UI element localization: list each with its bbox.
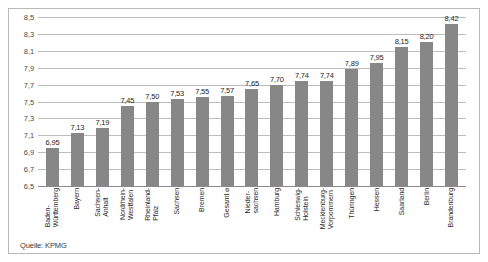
x-axis-label-slot: Saarland: [389, 188, 414, 246]
bar: 7,65: [245, 89, 258, 186]
x-axis-category-label: Sachsen: [173, 188, 181, 215]
x-axis-category-label: Hessen: [373, 188, 381, 211]
bar: 7,13: [71, 133, 84, 186]
bar: 7,89: [345, 69, 358, 186]
bar-slot: 8,42: [439, 17, 464, 186]
x-axis-category-label: Saarland: [398, 188, 406, 215]
x-axis-category-line: Hamburg: [273, 188, 281, 216]
x-axis-category-label: Thüringen: [348, 188, 356, 219]
x-axis-category-line: Rheinland-: [145, 188, 153, 221]
bar: 7,55: [196, 97, 209, 186]
bar-slot: 7,19: [90, 17, 115, 186]
chart-figure: 8,58,38,17,97,77,57,37,16,96,76,5 6,957,…: [0, 0, 488, 262]
x-axis-category-line: Württemberg: [52, 188, 60, 227]
x-axis-category-label: Nieder-sachsen: [244, 188, 259, 213]
bar-slot: 6,95: [40, 17, 65, 186]
x-axis-label-slot: Gesamt ⌀: [215, 188, 240, 246]
bar-slot: 8,20: [414, 17, 439, 186]
bar: 7,19: [96, 128, 109, 186]
x-axis-category-line: Nordrhein-: [120, 188, 128, 220]
bar: 8,20: [420, 42, 433, 186]
bar-value-label: 7,74: [295, 71, 309, 80]
bar-value-label: 8,20: [420, 32, 434, 41]
bar-value-label: 7,57: [220, 86, 234, 95]
bar-value-label: 7,55: [195, 87, 209, 96]
bar: 7,70: [270, 85, 283, 186]
x-axis-label-slot: Nordrhein-Westfalen: [115, 188, 140, 246]
bar: 7,53: [171, 99, 184, 186]
x-axis-label-slot: Hessen: [364, 188, 389, 246]
bar-slot: 7,89: [339, 17, 364, 186]
bar-slot: 7,50: [140, 17, 165, 186]
x-axis-label-slot: Schleswig-Holstein: [289, 188, 314, 246]
x-axis-category-line: Holstein: [302, 188, 310, 221]
x-axis-category-line: Thüringen: [348, 188, 356, 219]
bar: 7,45: [121, 106, 134, 186]
x-axis-category-label: Bremen: [198, 188, 206, 212]
bar-slot: 7,45: [115, 17, 140, 186]
bar-slot: 8,15: [389, 17, 414, 186]
bar: 8,15: [395, 47, 408, 186]
bar: 8,42: [445, 24, 458, 186]
x-axis-label-slot: Bayern: [65, 188, 90, 246]
x-axis-category-line: sachsen: [252, 188, 260, 213]
bar-value-label: 7,50: [145, 92, 159, 101]
x-axis-category-label: Rheinland-Pfalz: [145, 188, 160, 221]
plot-area: 8,58,38,17,97,77,57,37,16,96,76,5 6,957,…: [38, 17, 466, 186]
x-axis-category-label: Gesamt ⌀: [223, 188, 231, 218]
x-axis-category-line: Berlin: [423, 188, 431, 205]
x-axis-category-label: Hamburg: [273, 188, 281, 216]
bar-slot: 7,70: [264, 17, 289, 186]
bar: 7,57: [221, 96, 234, 186]
x-axis-labels: Baden-WürttembergBayernSachsen-AnhaltNor…: [38, 188, 466, 246]
x-axis-label-slot: Nieder-sachsen: [240, 188, 265, 246]
x-axis-category-line: Nieder-: [244, 188, 252, 213]
x-axis-category-line: Sachsen-: [95, 188, 103, 217]
x-axis-category-line: Bayern: [74, 188, 82, 210]
bar-value-label: 7,65: [245, 79, 259, 88]
bar-slot: 7,65: [240, 17, 265, 186]
bar-value-label: 7,13: [71, 123, 85, 132]
x-axis-category-label: Nordrhein-Westfalen: [120, 188, 135, 220]
bar-value-label: 7,53: [170, 89, 184, 98]
bar-slot: 7,95: [364, 17, 389, 186]
source-note: Quelle: KPMG: [20, 241, 67, 250]
x-axis-category-label: Bayern: [74, 188, 82, 210]
x-axis-label-slot: Rheinland-Pfalz: [140, 188, 165, 246]
x-axis-label-slot: Sachsen: [165, 188, 190, 246]
x-axis-category-label: Schleswig-Holstein: [294, 188, 309, 221]
bar: 7,95: [370, 63, 383, 186]
x-axis-label-slot: Hamburg: [264, 188, 289, 246]
bar-slot: 7,57: [215, 17, 240, 186]
bar: 7,50: [146, 102, 159, 187]
bar-series: 6,957,137,197,457,507,537,557,577,657,70…: [38, 17, 466, 186]
x-axis-category-label: Mecklenburg-Vorpommern: [319, 188, 334, 229]
x-axis-label-slot: Sachsen-Anhalt: [90, 188, 115, 246]
bar-value-label: 7,74: [320, 71, 334, 80]
x-axis-category-label: Sachsen-Anhalt: [95, 188, 110, 217]
x-axis-category-line: Saarland: [398, 188, 406, 215]
x-axis-label-slot: Berlin: [414, 188, 439, 246]
x-axis-category-line: Brandenburg: [448, 188, 456, 227]
x-axis-category-line: Schleswig-: [294, 188, 302, 221]
x-axis-category-line: Anhalt: [102, 188, 110, 217]
x-axis-category-label: Baden-Württemberg: [45, 188, 60, 227]
bar-value-label: 7,19: [95, 118, 109, 127]
x-axis-label-slot: Mecklenburg-Vorpommern: [314, 188, 339, 246]
bar: 6,95: [46, 148, 59, 186]
x-axis-category-line: Mecklenburg-: [319, 188, 327, 229]
bar-slot: 7,74: [314, 17, 339, 186]
x-axis-category-label: Brandenburg: [448, 188, 456, 227]
bar: 7,74: [295, 81, 308, 186]
x-axis-category-line: Vorpommern: [327, 188, 335, 229]
bar-value-label: 7,70: [270, 75, 284, 84]
x-axis-category-line: Gesamt ⌀: [223, 188, 231, 218]
bar-slot: 7,13: [65, 17, 90, 186]
x-axis-category-line: Sachsen: [173, 188, 181, 215]
bar-value-label: 8,42: [445, 14, 459, 23]
x-axis-label-slot: Brandenburg: [439, 188, 464, 246]
bar-value-label: 8,15: [395, 37, 409, 46]
bar-slot: 7,55: [190, 17, 215, 186]
x-axis-label-slot: Thüringen: [339, 188, 364, 246]
x-axis-label-slot: Bremen: [190, 188, 215, 246]
